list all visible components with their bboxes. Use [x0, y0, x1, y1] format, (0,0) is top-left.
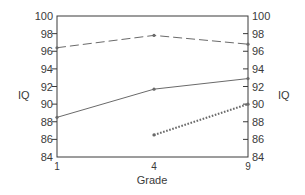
data-point-marker: [152, 34, 155, 37]
y-tick-label-right: 94: [252, 63, 264, 75]
series-dotted-line: [154, 104, 248, 135]
y-tick-label-left: 100: [35, 10, 53, 22]
y-tick-label-left: 90: [41, 98, 53, 110]
iq-by-grade-chart: 8484868688889090929294949696989810010014…: [0, 0, 305, 195]
plot-frame: [57, 16, 248, 157]
x-axis-label: Grade: [137, 174, 168, 186]
data-point-marker: [55, 46, 58, 49]
y-tick-label-left: 94: [41, 63, 53, 75]
y-tick-label-right: 84: [252, 151, 264, 163]
y-tick-label-left: 92: [41, 81, 53, 93]
y-tick-label-left: 86: [41, 133, 53, 145]
series-lines: [55, 34, 249, 137]
y-tick-label-right: 86: [252, 133, 264, 145]
y-tick-label-right: 88: [252, 116, 264, 128]
data-point-marker: [246, 43, 249, 46]
x-tick-label: 4: [151, 161, 157, 172]
x-tick-label: 1: [54, 161, 60, 172]
y-tick-label-right: 100: [252, 10, 270, 22]
axes: 8484868688889090929294949696989810010014…: [35, 10, 271, 172]
y-tick-label-left: 84: [41, 151, 53, 163]
series-solid-line: [57, 79, 248, 118]
y-tick-label-left: 88: [41, 116, 53, 128]
series-dashed-line: [57, 35, 248, 47]
data-point-marker: [246, 103, 249, 106]
data-point-marker: [152, 133, 155, 136]
y-tick-label-right: 92: [252, 81, 264, 93]
data-point-marker: [246, 77, 249, 80]
data-point-marker: [55, 116, 58, 119]
y-tick-label-right: 98: [252, 28, 264, 40]
y-axis-label-left: IQ: [18, 89, 30, 101]
y-tick-label-right: 90: [252, 98, 264, 110]
y-tick-label-left: 98: [41, 28, 53, 40]
data-point-marker: [152, 88, 155, 91]
y-axis-label-right: IQ: [278, 89, 290, 101]
x-tick-label: 9: [245, 161, 251, 172]
y-tick-label-left: 96: [41, 45, 53, 57]
y-tick-label-right: 96: [252, 45, 264, 57]
